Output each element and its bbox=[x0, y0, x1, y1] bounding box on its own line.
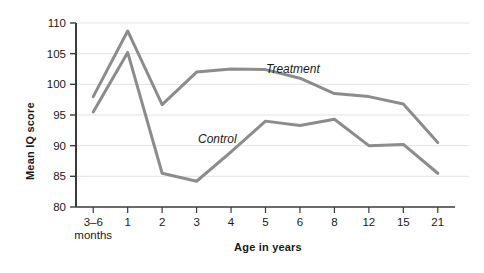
x-tick-label: 8 bbox=[331, 216, 337, 228]
x-axis-title: Age in years bbox=[0, 241, 484, 253]
line-chart: 80859095100105110 3–6months1234568121521… bbox=[0, 0, 484, 273]
control-series-label: Control bbox=[198, 132, 237, 146]
x-tick-label: 6 bbox=[297, 216, 303, 228]
y-tick-label: 95 bbox=[53, 109, 66, 121]
y-tick-label: 110 bbox=[48, 17, 66, 29]
x-axis-category-labels: 3–6months1234568121521 bbox=[74, 216, 444, 241]
chart-container: 80859095100105110 3–6months1234568121521… bbox=[0, 0, 484, 273]
x-tick-label: 3 bbox=[193, 216, 199, 228]
y-tick-label: 100 bbox=[47, 78, 66, 90]
x-tick-label: 1 bbox=[124, 216, 130, 228]
x-tick-label: 2 bbox=[159, 216, 165, 228]
y-axis-title: Mean IQ score bbox=[24, 102, 36, 180]
x-tick-label: 4 bbox=[228, 216, 235, 228]
x-tick-label: 12 bbox=[362, 216, 375, 228]
x-tick-label: 21 bbox=[431, 216, 444, 228]
y-tick-label: 85 bbox=[53, 170, 66, 182]
x-tick-label: 5 bbox=[262, 216, 268, 228]
x-tick-label: 15 bbox=[397, 216, 410, 228]
series-line-treatment bbox=[93, 31, 438, 143]
y-axis-tick-labels: 80859095100105110 bbox=[47, 17, 66, 213]
treatment-series-label: Treatment bbox=[266, 62, 320, 76]
y-axis-title-wrapper: Mean IQ score bbox=[10, 52, 26, 182]
x-tick-label-sub: months bbox=[74, 229, 112, 241]
x-axis-ticks bbox=[93, 207, 438, 213]
x-tick-label: 3–6 bbox=[84, 216, 103, 228]
y-tick-label: 105 bbox=[47, 48, 66, 60]
y-tick-label: 90 bbox=[53, 140, 66, 152]
y-tick-label: 80 bbox=[53, 201, 66, 213]
